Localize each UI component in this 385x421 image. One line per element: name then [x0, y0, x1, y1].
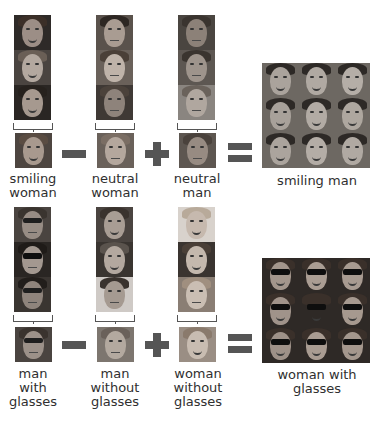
face-image [14, 50, 51, 85]
average-brace [95, 123, 135, 130]
face-image [96, 242, 133, 277]
face-image [334, 133, 370, 168]
face-image [14, 242, 51, 277]
man-without-glasses-average [97, 327, 134, 362]
face-image [262, 98, 298, 133]
smiling-woman-average [15, 133, 52, 168]
term-label: neutral man [164, 172, 230, 200]
term-label: man with glasses [0, 367, 66, 409]
equals-operator-icon-lower [228, 155, 252, 162]
face-image [298, 98, 334, 133]
face-image [178, 207, 215, 242]
term-label: smiling woman [0, 172, 66, 200]
average-brace [177, 315, 217, 322]
face-image [334, 258, 370, 293]
term-label: neutral woman [82, 172, 148, 200]
face-image [262, 258, 298, 293]
average-brace [13, 123, 53, 130]
man-with-glasses-average [15, 327, 52, 362]
face-image [96, 277, 133, 312]
minus-operator-icon [62, 341, 86, 349]
face-image [298, 293, 334, 328]
equals-operator-icon-lower [228, 346, 252, 353]
face-image [298, 133, 334, 168]
face-image [14, 207, 51, 242]
plus-operator-icon-vertical [153, 142, 161, 166]
face-image [178, 50, 215, 85]
average-brace [177, 123, 217, 130]
average-brace [95, 315, 135, 322]
face-image [96, 50, 133, 85]
face-image [14, 85, 51, 120]
neutral-man-average [179, 133, 216, 168]
face-image [262, 328, 298, 363]
plus-operator-icon-vertical [153, 333, 161, 357]
face-image [14, 15, 51, 50]
face-image [96, 15, 133, 50]
face-image [334, 293, 370, 328]
face-image [178, 85, 215, 120]
face-image [298, 258, 334, 293]
face-image [14, 277, 51, 312]
smiling-man-result-grid [262, 63, 370, 168]
face-image [96, 207, 133, 242]
average-brace [13, 315, 53, 322]
face-image [298, 63, 334, 98]
face-image [334, 98, 370, 133]
woman-with-glasses-result-grid [262, 258, 370, 363]
result-label: woman with glasses [256, 368, 378, 396]
equals-operator-icon [228, 334, 252, 341]
face-image [262, 293, 298, 328]
face-image [334, 63, 370, 98]
face-image [262, 63, 298, 98]
face-image [298, 328, 334, 363]
face-image [178, 15, 215, 50]
face-image [178, 277, 215, 312]
equals-operator-icon [228, 143, 252, 150]
woman-without-glasses-average [179, 327, 216, 362]
term-label: woman without glasses [162, 367, 234, 409]
neutral-woman-average [97, 133, 134, 168]
minus-operator-icon [62, 150, 86, 158]
face-image [178, 242, 215, 277]
face-image [262, 133, 298, 168]
term-label: man without glasses [80, 367, 150, 409]
face-image [96, 85, 133, 120]
face-image [334, 328, 370, 363]
result-label: smiling man [262, 174, 372, 188]
